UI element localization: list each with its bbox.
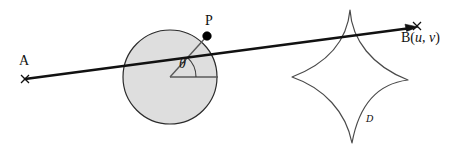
- label-point-b-name: B: [401, 30, 410, 45]
- label-point-a: A: [19, 54, 29, 68]
- label-point-b: B(u, v): [401, 31, 440, 45]
- label-region-d: ᴰ: [366, 115, 374, 130]
- label-point-b-paren-close: ): [435, 30, 440, 45]
- figure-canvas: [0, 0, 459, 152]
- geometry-figure: A P θ B(u, v) ᴰ: [0, 0, 459, 152]
- label-point-b-separator: ,: [422, 30, 429, 45]
- point-marker-p: [203, 32, 212, 41]
- label-point-p: P: [205, 14, 213, 28]
- label-angle-theta: θ: [179, 57, 186, 71]
- label-point-b-u: u: [415, 30, 422, 45]
- ray-a-to-b: [25, 28, 411, 79]
